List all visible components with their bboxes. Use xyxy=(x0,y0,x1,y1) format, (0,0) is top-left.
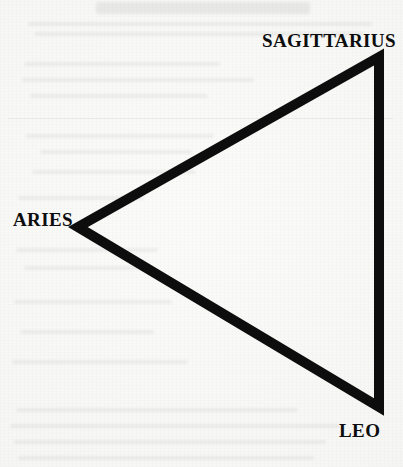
triangle-outline xyxy=(78,57,379,407)
figure-page: SAGITTARIUS ARIES LEO xyxy=(0,0,403,467)
vertex-label-sagittarius: SAGITTARIUS xyxy=(262,31,396,50)
vertex-label-aries: ARIES xyxy=(13,210,73,229)
vertex-label-leo: LEO xyxy=(339,421,380,440)
trigon-triangle xyxy=(0,0,403,467)
